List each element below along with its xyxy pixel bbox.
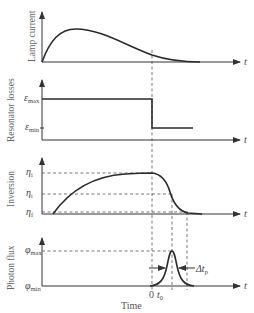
ylabel-lamp-current: Lamp current [27,10,37,62]
ylabel-inversion: Inversion [6,171,16,207]
x-axis-title: Time [121,300,142,311]
panel-photon-flux: Δtp Photon flux φmax φmin 0 t0 t Time [6,238,247,311]
label-eta-i: ηi [26,166,33,178]
inversion-curve [53,173,202,214]
losses-step-curve [42,99,193,128]
lamp-current-curve [42,29,200,62]
q-switch-timing-diagram: Lamp current t Resonator losses εmax εmi… [0,0,254,313]
label-time-zero: 0 [149,289,154,300]
label-eta-t: ηt [26,187,33,199]
panel-lamp-current: Lamp current t [27,10,247,67]
t-axis-label: t [244,56,247,67]
panel-resonator-losses: Resonator losses εmax εmin t [6,78,247,145]
label-phi-max: φmax [25,244,42,256]
label-epsilon-max: εmax [24,92,40,104]
label-epsilon-min: εmin [25,121,40,133]
label-phi-min: φmin [25,280,41,292]
ylabel-resonator-losses: Resonator losses [6,78,16,142]
label-t0: t0 [157,289,163,301]
label-pulse-width: Δtp [195,263,208,275]
t-axis-label: t [244,134,247,145]
t-axis-label: t [244,208,247,219]
t-axis-label: t [244,280,247,291]
label-eta-f: ηf [26,206,34,218]
ylabel-photon-flux: Photon flux [6,245,16,290]
